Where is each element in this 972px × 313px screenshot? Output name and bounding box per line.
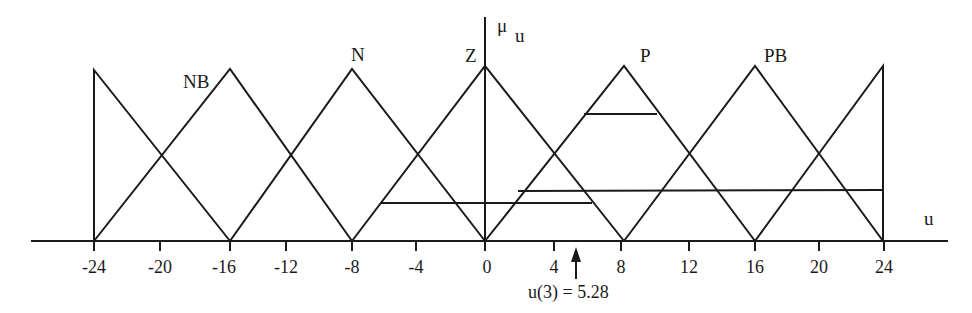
nb-membership [94,69,352,241]
annotation-arrow-head-icon [571,247,581,262]
label-z: Z [465,45,477,66]
x-axis-label: u [924,208,934,229]
label-n: N [351,44,365,65]
label-p: P [640,45,651,66]
svg-text:4: 4 [550,257,559,277]
mu-axis-subscript: u [515,25,525,46]
svg-text:20: 20 [810,257,828,277]
membership-function-diagram: NB N Z P PB μ u u -24 -20 -16 -12 -8 -4 … [0,0,972,313]
svg-text:12: 12 [680,257,698,277]
label-nb: NB [183,71,209,92]
svg-text:8: 8 [617,257,626,277]
label-pb: PB [764,45,787,66]
svg-text:-12: -12 [274,257,298,277]
clip-line-mid [518,190,883,191]
x-ticks [94,241,884,251]
svg-text:-20: -20 [148,257,172,277]
svg-text:-4: -4 [409,257,424,277]
mu-axis-label: μ [497,15,507,36]
pb-membership [624,66,883,241]
n-membership [230,69,485,241]
x-tick-labels: -24 -20 -16 -12 -8 -4 0 4 8 12 16 20 24 [82,257,893,277]
p-membership [485,66,755,241]
svg-text:-24: -24 [82,257,106,277]
svg-text:-8: -8 [345,257,360,277]
svg-text:24: 24 [875,257,893,277]
svg-text:-16: -16 [212,257,236,277]
svg-text:16: 16 [746,257,764,277]
z-membership [352,66,624,241]
annotation-label: u(3) = 5.28 [528,282,609,303]
svg-text:0: 0 [483,257,492,277]
